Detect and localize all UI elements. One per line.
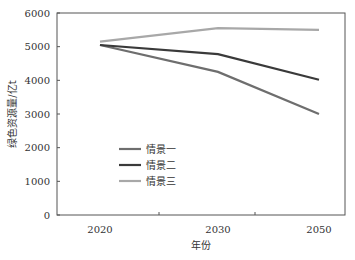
y-tick-label: 1000 [25,176,50,187]
series-line-2 [100,45,319,80]
series-line-3 [100,28,319,41]
x-tick-label: 2030 [205,224,230,235]
legend-item-1: 情景一 [119,143,176,155]
x-axis-title: 年份 [191,239,211,251]
line-chart: 0100020003000400050006000 202020302050 情… [0,0,355,260]
y-tick-label: 5000 [25,41,50,52]
series-lines [100,28,319,114]
series-line-1 [100,45,319,114]
y-tick-label: 6000 [25,8,50,19]
legend-label: 情景三 [146,175,176,187]
y-tick-label: 0 [44,210,50,221]
y-tick-label: 2000 [25,142,50,153]
legend-label: 情景二 [146,159,176,171]
y-axis-ticks: 0100020003000400050006000 [25,8,60,221]
plot-border [57,13,345,215]
y-tick-label: 4000 [25,75,50,86]
x-tick-label: 2020 [87,224,112,235]
x-tick-label: 2050 [306,224,331,235]
legend-item-3: 情景三 [119,175,176,187]
y-tick-label: 3000 [25,109,50,120]
y-axis-title: 绿色资源量/亿t [6,80,18,147]
legend-item-2: 情景二 [119,159,176,171]
legend-label: 情景一 [146,143,176,155]
legend: 情景一情景二情景三 [119,143,176,187]
plot-frame [57,13,345,215]
